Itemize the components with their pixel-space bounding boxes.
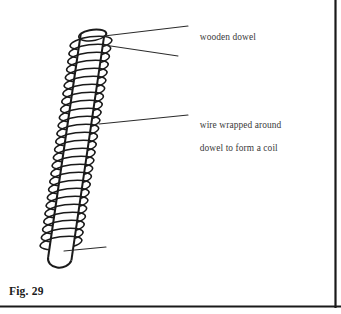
label-wooden-dowel-line-1: wooden dowel [200, 32, 256, 42]
figure-illustration [0, 0, 341, 314]
figure-page: wooden dowel wire wrapped around dowel t… [0, 0, 341, 314]
label-wire-coil: wire wrapped around dowel to form a coil [190, 109, 281, 166]
leader-line-wooden-dowel-top [104, 26, 188, 36]
label-wire-coil-line-1: wire wrapped around [200, 120, 282, 130]
leader-line-wooden-dowel-lower [104, 45, 178, 56]
leader-line-wire-coil [99, 115, 188, 124]
figure-caption: Fig. 29 [9, 285, 44, 297]
label-wooden-dowel: wooden dowel [190, 21, 256, 55]
label-wire-coil-line-2: dowel to form a coil [200, 143, 278, 153]
